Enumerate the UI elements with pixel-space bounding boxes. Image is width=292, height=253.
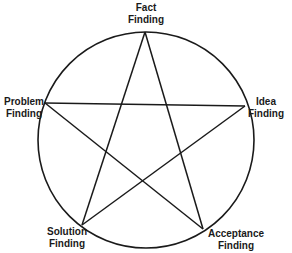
outer-circle [38, 32, 254, 248]
node-label-line2: Finding [200, 240, 272, 252]
node-label-line1: Problem [2, 96, 46, 108]
edge-idea-to-solution [82, 106, 245, 225]
node-label-idea-finding: Idea Finding [243, 96, 289, 120]
edge-problem-to-idea [45, 103, 245, 106]
diagram-canvas [0, 0, 292, 253]
node-label-line1: Acceptance [200, 228, 272, 240]
edge-acceptance-to-problem [45, 103, 203, 229]
edge-fact-to-acceptance [145, 32, 203, 229]
node-label-line1: Solution [40, 226, 94, 238]
edge-solution-to-fact [82, 32, 145, 225]
node-label-solution-finding: Solution Finding [40, 226, 94, 250]
node-label-line2: Finding [118, 14, 174, 26]
pentagram-diagram: Fact Finding Idea Finding Acceptance Fin… [0, 0, 292, 253]
node-label-line2: Finding [40, 238, 94, 250]
pentagram-edges [45, 32, 245, 229]
node-label-acceptance-finding: Acceptance Finding [200, 228, 272, 252]
node-label-line2: Finding [243, 108, 289, 120]
node-label-line1: Fact [118, 2, 174, 14]
node-label-line2: Finding [2, 108, 46, 120]
node-label-line1: Idea [243, 96, 289, 108]
node-label-problem-finding: Problem Finding [2, 96, 46, 120]
node-label-fact-finding: Fact Finding [118, 2, 174, 26]
